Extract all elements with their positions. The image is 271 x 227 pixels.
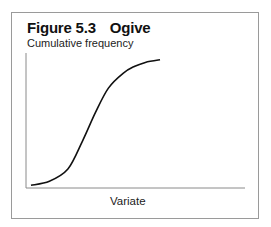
x-axis-label: Variate: [110, 195, 146, 207]
ogive-curve: [31, 60, 160, 186]
ogive-plot: [0, 0, 271, 227]
